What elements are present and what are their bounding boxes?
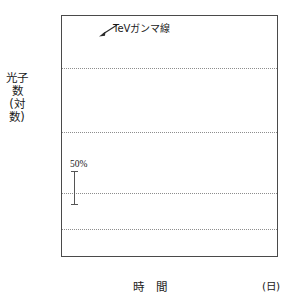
x-axis-title: 時 間 <box>0 278 304 294</box>
reference-line-2 <box>62 193 277 194</box>
annotation-percent-label: 50% <box>70 159 87 169</box>
annotation-tev-arrow <box>96 24 118 38</box>
data-layer <box>62 16 277 256</box>
figure-tev-lightcurve: 光子数(対数) TeVガンマ線 50% 時 間 (日) <box>0 0 304 301</box>
y-axis-title: 光子数(対数) <box>6 72 28 124</box>
reference-line-1 <box>62 132 277 133</box>
annotation-percent-errorbar <box>74 171 75 204</box>
x-axis-unit: (日) <box>262 278 280 293</box>
plot-area <box>61 15 278 257</box>
annotation-tev-label: TeVガンマ線 <box>113 20 170 35</box>
percent-errorbar-cap-bottom <box>71 204 78 205</box>
reference-line-3 <box>62 229 277 230</box>
percent-errorbar-cap-top <box>71 171 78 172</box>
reference-line-0 <box>62 68 277 69</box>
